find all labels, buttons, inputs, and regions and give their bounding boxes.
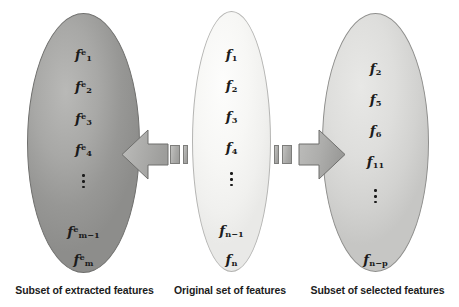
- feature-item: f11: [367, 153, 384, 169]
- feature-item: f2: [370, 60, 382, 76]
- ellipsis-vertical: [193, 172, 270, 186]
- feature-item: f4: [226, 139, 238, 155]
- feature-item: fn−1: [219, 222, 244, 238]
- feature-item: fn: [226, 251, 238, 267]
- original-feature-list: f1 f2 f3 f4: [193, 12, 270, 271]
- feature-item: fem: [74, 251, 94, 267]
- feature-item: fe2: [75, 78, 92, 94]
- caption-extracted-features: Subset of extracted features: [12, 284, 157, 296]
- feature-item: fe1: [75, 46, 92, 62]
- feature-item: f3: [226, 108, 238, 124]
- group-original-features: f1 f2 f3 f4: [192, 11, 271, 272]
- feature-item: fe4: [75, 141, 92, 157]
- ellipsis-vertical: [323, 189, 428, 203]
- caption-selected-features: Subset of selected features: [305, 284, 450, 296]
- feature-item: fe3: [75, 110, 92, 126]
- feature-item: fn−p: [363, 251, 388, 267]
- feature-item: f6: [370, 122, 382, 138]
- extraction-arrow-icon: [121, 128, 176, 181]
- connector-block-left-a: [170, 145, 180, 164]
- feature-item: f5: [370, 91, 382, 107]
- selection-arrow-icon: [292, 128, 347, 181]
- connector-block-right-b: [282, 145, 292, 164]
- feature-item: f2: [226, 77, 238, 93]
- feature-selection-diagram: fe1 fe2 fe3 fe4: [0, 0, 459, 307]
- caption-original-features: Original set of features: [165, 284, 295, 296]
- connector-block-left-b: [183, 145, 188, 164]
- feature-item: f1: [226, 46, 238, 62]
- connector-block-right-a: [274, 145, 279, 164]
- feature-item: fem−1: [67, 223, 99, 239]
